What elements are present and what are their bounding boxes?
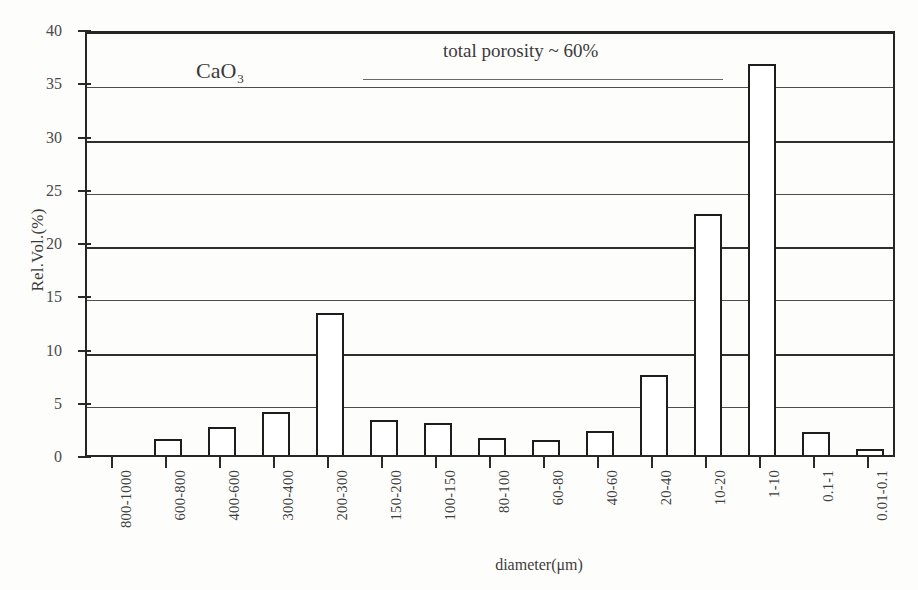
- y-axis-tick-label: 10: [22, 342, 62, 360]
- y-axis-tick-label: 5: [22, 395, 62, 413]
- y-axis-tick-label: 0: [22, 448, 62, 466]
- bar: [262, 412, 290, 455]
- x-axis-tick-mark: [705, 457, 707, 468]
- x-axis-tick-label: 10-20: [712, 470, 729, 505]
- x-axis-tick-label: 0.1-1: [820, 470, 837, 502]
- x-axis-tick-mark: [867, 457, 869, 468]
- sample-annotation-main: CaO: [196, 58, 236, 83]
- x-axis-tick-label: 600-800: [172, 470, 189, 520]
- x-axis-tick-mark: [219, 457, 221, 468]
- x-axis-tick-labels: 800-1000600-800400-600300-400200-300150-…: [85, 470, 895, 565]
- bar: [748, 64, 776, 455]
- x-axis-tick-mark: [273, 457, 275, 468]
- plot-area: [85, 31, 895, 457]
- x-axis-tick-mark: [381, 457, 383, 468]
- x-axis-tick-mark: [813, 457, 815, 468]
- bar: [478, 438, 506, 455]
- bar: [856, 449, 884, 455]
- chart-figure: Rel.Vol.(%) 0510152025303540 800-1000600…: [0, 0, 918, 590]
- bar: [208, 427, 236, 455]
- bar: [694, 214, 722, 455]
- bar-series: [87, 34, 893, 455]
- x-axis-tick-mark: [651, 457, 653, 468]
- x-axis-tick-label: 1-10: [766, 470, 783, 498]
- x-axis-tick-mark: [759, 457, 761, 468]
- y-axis-tick-label: 15: [22, 288, 62, 306]
- x-axis-tick-label: 400-600: [226, 470, 243, 520]
- x-axis-tick-label: 40-60: [604, 470, 621, 505]
- bar: [640, 375, 668, 455]
- sample-annotation-subscript: 3: [237, 71, 244, 86]
- porosity-annotation: total porosity ~ 60%: [443, 40, 598, 62]
- x-axis-tick-label: 0.01-0.1: [874, 470, 891, 521]
- x-axis-tick-label: 800-1000: [118, 470, 135, 528]
- bar: [532, 440, 560, 455]
- y-axis-tick-labels: 0510152025303540: [22, 0, 62, 590]
- x-axis-tick-label: 60-80: [550, 470, 567, 505]
- y-axis-tick-label: 35: [22, 75, 62, 93]
- x-axis-tick-label: 100-150: [442, 470, 459, 520]
- x-axis-tick-mark: [435, 457, 437, 468]
- x-axis-tick-label: 200-300: [334, 470, 351, 520]
- bar: [154, 439, 182, 455]
- bar: [802, 432, 830, 455]
- x-axis-tick-label: 300-400: [280, 470, 297, 520]
- y-axis-tick-label: 20: [22, 235, 62, 253]
- x-axis-tick-mark: [327, 457, 329, 468]
- y-axis-tick-label: 40: [22, 22, 62, 40]
- y-axis-tick-label: 25: [22, 182, 62, 200]
- x-axis-tick-mark: [543, 457, 545, 468]
- x-axis-tick-mark: [597, 457, 599, 468]
- y-axis-tick-label: 30: [22, 129, 62, 147]
- bar: [424, 423, 452, 455]
- bar: [370, 420, 398, 455]
- x-axis-tick-label: 150-200: [388, 470, 405, 520]
- x-axis-tick-marks: [85, 457, 895, 469]
- bar: [316, 313, 344, 455]
- x-axis-tick-mark: [489, 457, 491, 468]
- bar: [586, 431, 614, 455]
- x-axis-tick-label: 20-40: [658, 470, 675, 505]
- x-axis-title: diameter(μm): [0, 556, 918, 574]
- x-axis-tick-mark: [111, 457, 113, 468]
- porosity-annotation-underline: [363, 79, 723, 80]
- x-axis-tick-label: 80-100: [496, 470, 513, 513]
- x-axis-tick-mark: [165, 457, 167, 468]
- sample-annotation: CaO3: [196, 58, 243, 84]
